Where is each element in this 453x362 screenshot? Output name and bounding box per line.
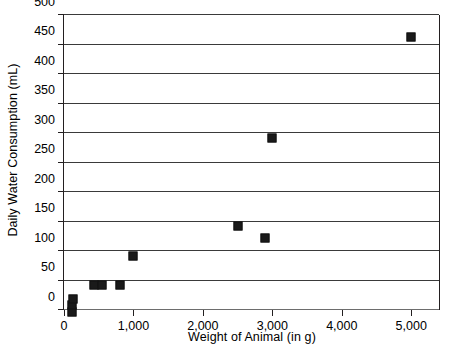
x-tick-label: 4,000: [326, 319, 357, 333]
y-tick-label: 50: [41, 260, 55, 274]
scatter-chart: Daily Water Consumption (mL) Weight of A…: [0, 0, 453, 362]
y-tick-label: 300: [34, 113, 55, 127]
x-tick-label: 1,000: [118, 319, 149, 333]
x-tick: [64, 310, 65, 316]
gridline: [64, 103, 439, 104]
x-tick: [133, 310, 134, 316]
y-tick-label: 100: [34, 231, 55, 245]
x-tick: [411, 310, 412, 316]
y-tick: [58, 191, 64, 192]
x-tick-label: 3,000: [257, 319, 288, 333]
y-tick: [58, 250, 64, 251]
x-tick: [342, 310, 343, 316]
data-point: [233, 222, 242, 231]
gridline: [64, 191, 439, 192]
y-tick: [58, 14, 64, 15]
gridline: [64, 309, 439, 310]
gridline: [64, 132, 439, 133]
y-tick: [58, 221, 64, 222]
x-tick: [203, 310, 204, 316]
x-tick: [272, 310, 273, 316]
data-point: [69, 295, 78, 304]
data-point: [115, 281, 124, 290]
y-tick-label: 200: [34, 172, 55, 186]
gridline: [64, 162, 439, 163]
y-tick-label: 350: [34, 83, 55, 97]
y-tick-label: 450: [34, 24, 55, 38]
x-tick-label: 2,000: [187, 319, 218, 333]
gridline: [64, 44, 439, 45]
x-tick-label: 5,000: [396, 319, 427, 333]
x-tick-label: 0: [61, 319, 68, 333]
y-tick-label: 400: [34, 54, 55, 68]
data-point: [97, 281, 106, 290]
gridline: [64, 221, 439, 222]
data-point: [261, 233, 270, 242]
y-tick: [58, 162, 64, 163]
y-tick: [58, 44, 64, 45]
y-axis-title: Daily Water Consumption (mL): [2, 0, 24, 300]
gridline: [64, 14, 439, 15]
y-tick: [58, 73, 64, 74]
y-tick: [58, 103, 64, 104]
data-point: [129, 251, 138, 260]
data-point: [268, 133, 277, 142]
gridline: [64, 73, 439, 74]
y-tick-label: 150: [34, 201, 55, 215]
y-tick-label: 500: [34, 0, 55, 9]
y-tick: [58, 280, 64, 281]
plot-area: 050100150200250300350400450500 01,0002,0…: [63, 15, 440, 310]
y-tick: [58, 132, 64, 133]
y-tick-label: 0: [48, 290, 55, 304]
data-point: [407, 33, 416, 42]
y-tick-label: 250: [34, 142, 55, 156]
gridline: [64, 250, 439, 251]
